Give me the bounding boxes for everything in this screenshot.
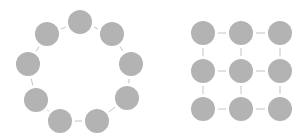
ring-node <box>48 109 72 133</box>
grid-node <box>191 97 215 121</box>
ring-node <box>68 10 92 34</box>
grid-node <box>229 21 253 45</box>
ring-node <box>24 88 48 112</box>
ring-edge <box>109 107 115 112</box>
grid-node <box>191 59 215 83</box>
ring-node <box>85 109 109 133</box>
ring-edge <box>120 47 123 52</box>
ring-node <box>35 22 59 46</box>
grid-node <box>268 97 292 121</box>
ring-edge <box>31 79 32 86</box>
grid-node <box>268 21 292 45</box>
ring-edge <box>36 47 39 52</box>
grid-node <box>229 59 253 83</box>
ring-node <box>16 52 40 76</box>
ring-edge <box>61 27 66 29</box>
ring-edge <box>94 27 98 28</box>
ring-edge <box>47 110 48 111</box>
ring-node <box>119 52 143 76</box>
ring-node <box>115 86 139 110</box>
grid-node <box>229 97 253 121</box>
topology-diagram <box>0 0 306 137</box>
grid-node <box>191 21 215 45</box>
ring-node <box>100 22 124 46</box>
ring-nodes <box>16 10 143 133</box>
grid-node <box>268 59 292 83</box>
grid-nodes <box>191 21 292 121</box>
